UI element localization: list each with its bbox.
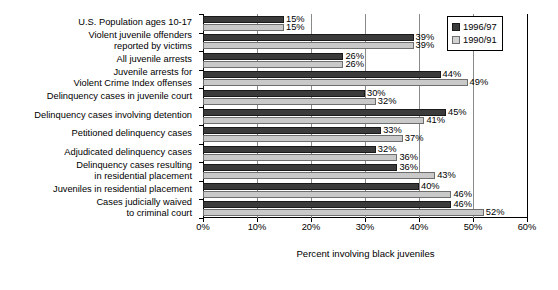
x-axis-tick-label: 50% (451, 222, 495, 232)
bar-value-label: 33% (383, 126, 402, 135)
light-swatch-icon (452, 36, 460, 44)
x-axis-tick-label: 0% (181, 222, 225, 232)
bar (203, 24, 284, 31)
y-axis-tick (199, 88, 203, 89)
bar-value-label: 43% (437, 171, 456, 180)
bar (203, 42, 414, 49)
bar (203, 146, 376, 153)
bar (203, 183, 419, 190)
bar-value-label: 36% (399, 163, 418, 172)
x-axis-tick-label: 60% (505, 222, 549, 232)
bar (203, 79, 468, 86)
bar (203, 90, 365, 97)
bar (203, 117, 424, 124)
bar-value-label: 15% (286, 23, 305, 32)
y-axis-tick (199, 51, 203, 52)
legend: 1996/97 1990/91 (447, 16, 503, 51)
x-axis-tick-label: 30% (343, 222, 387, 232)
bar (203, 127, 381, 134)
gridline (527, 14, 528, 218)
bar-value-label: 36% (399, 153, 418, 162)
dark-swatch-icon (452, 23, 460, 31)
legend-item-1990-91: 1990/91 (452, 33, 497, 46)
x-axis-tick-label: 20% (289, 222, 333, 232)
bar (203, 71, 441, 78)
bar-value-label: 32% (378, 145, 397, 154)
legend-label: 1990/91 (463, 35, 497, 45)
bar-value-label: 41% (426, 116, 445, 125)
category-labels: U.S. Population ages 10-17Violent juveni… (0, 14, 198, 218)
bar-value-label: 44% (443, 70, 462, 79)
category-label: Delinquency cases in juvenile court (0, 91, 192, 102)
category-label: Juvenile arrests for Violent Crime Index… (0, 67, 192, 88)
bar-value-label: 46% (453, 190, 472, 199)
bar (203, 154, 397, 161)
bar (203, 164, 397, 171)
category-label: All juvenile arrests (0, 54, 192, 65)
x-axis-tick-label: 10% (235, 222, 279, 232)
bar (203, 98, 376, 105)
category-label: Delinquency cases resulting in residenti… (0, 160, 192, 181)
x-axis-tick-label: 40% (397, 222, 441, 232)
bar-chart: U.S. Population ages 10-17Violent juveni… (0, 0, 558, 290)
bar-value-label: 40% (421, 182, 440, 191)
category-label: Violent juvenile offenders reported by v… (0, 30, 192, 51)
bar-value-label: 46% (453, 200, 472, 209)
bar (203, 16, 284, 23)
category-label: Cases judicially waived to criminal cour… (0, 197, 192, 218)
bar (203, 53, 343, 60)
category-label: Petitioned delinquency cases (0, 128, 192, 139)
legend-item-1996-97: 1996/97 (452, 20, 497, 33)
bar (203, 135, 403, 142)
bar-value-label: 49% (470, 78, 489, 87)
bar (203, 34, 414, 41)
bar-value-label: 37% (405, 134, 424, 143)
bar (203, 191, 451, 198)
bar (203, 172, 435, 179)
bar-value-label: 26% (345, 60, 364, 69)
category-label: Juveniles in residential placement (0, 184, 192, 195)
y-axis-tick (199, 218, 203, 219)
legend-label: 1996/97 (463, 22, 497, 32)
category-label: Delinquency cases involving detention (0, 110, 192, 121)
bar-value-label: 52% (486, 208, 505, 217)
category-label: U.S. Population ages 10-17 (0, 17, 192, 28)
bar-value-label: 39% (416, 41, 435, 50)
bar (203, 61, 343, 68)
y-axis-tick (199, 199, 203, 200)
bar (203, 109, 446, 116)
bar-value-label: 45% (448, 108, 467, 117)
bar-value-label: 32% (378, 97, 397, 106)
category-label: Adjudicated delinquency cases (0, 147, 192, 158)
bar (203, 201, 451, 208)
y-axis-tick (199, 162, 203, 163)
y-axis-tick (199, 125, 203, 126)
x-axis-title: Percent involving black juveniles (203, 248, 528, 259)
bar (203, 209, 484, 216)
